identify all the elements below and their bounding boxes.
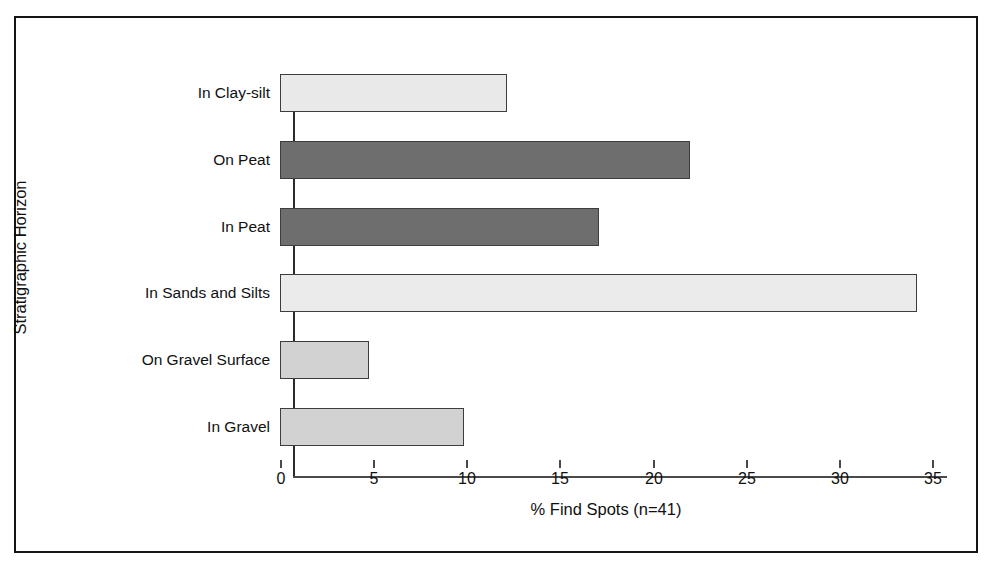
bar-fill — [280, 74, 507, 112]
x-axis-tick-label: 20 — [624, 470, 684, 488]
x-axis-tick — [280, 460, 282, 468]
bar — [280, 274, 917, 312]
x-axis-tick — [373, 460, 375, 468]
bar-fill — [280, 274, 917, 312]
figure-frame: In Clay-siltOn PeatIn PeatIn Sands and S… — [14, 16, 978, 553]
bar — [280, 74, 507, 112]
x-axis-tick-label: 30 — [810, 470, 870, 488]
x-axis-title: % Find Spots (n=41) — [280, 500, 932, 519]
y-axis-title: Stratigraphic Horizon — [11, 128, 30, 388]
x-axis-tick-label: 0 — [251, 470, 311, 488]
x-axis-tick-label: 35 — [903, 470, 963, 488]
bar — [280, 141, 690, 179]
category-label: In Peat — [8, 208, 270, 246]
category-label: In Gravel — [8, 408, 270, 446]
category-label: In Clay-silt — [8, 74, 270, 112]
x-axis-tick — [839, 460, 841, 468]
x-axis-tick-label: 15 — [530, 470, 590, 488]
x-axis-tick-label: 5 — [344, 470, 404, 488]
x-axis-tick — [746, 460, 748, 468]
bar-fill — [280, 408, 464, 446]
category-label: In Sands and Silts — [8, 274, 270, 312]
bar — [280, 341, 369, 379]
bar — [280, 408, 464, 446]
x-axis-tick-label: 10 — [437, 470, 497, 488]
x-axis-tick — [932, 460, 934, 468]
x-axis-tick — [653, 460, 655, 468]
category-label: On Peat — [8, 141, 270, 179]
x-axis-tick-label: 25 — [717, 470, 777, 488]
bar — [280, 208, 599, 246]
bar-fill — [280, 341, 369, 379]
bar-fill — [280, 141, 690, 179]
category-label: On Gravel Surface — [8, 341, 270, 379]
x-axis-tick — [466, 460, 468, 468]
x-axis-tick — [559, 460, 561, 468]
chart-figure: In Clay-siltOn PeatIn PeatIn Sands and S… — [0, 0, 995, 570]
bar-fill — [280, 208, 599, 246]
